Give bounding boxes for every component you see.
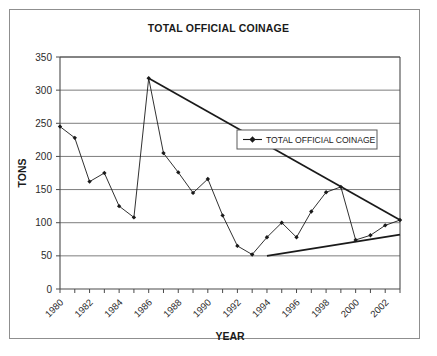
x-axis-title: YEAR [215,330,245,342]
x-tick-label: 1982 [72,297,95,320]
x-tick-label: 2000 [338,297,361,320]
x-tick-label: 1980 [43,297,66,320]
y-tick-label: 250 [35,118,52,129]
y-tick-label: 350 [35,52,52,63]
x-tick-label: 1996 [279,297,302,320]
chart-plot-area: 050100150200250300350 198019821984198619… [0,0,437,356]
y-tick-label: 300 [35,85,52,96]
chart-figure: TOTAL OFFICIAL COINAGE 05010015020025030… [0,0,437,356]
y-tick-label: 50 [41,250,53,261]
plot-background [60,57,400,289]
y-axis-ticks: 050100150200250300350 [35,52,60,295]
x-tick-label: 1994 [250,297,273,320]
chart-legend: TOTAL OFFICIAL COINAGE [237,130,377,149]
x-tick-label: 2002 [368,297,391,320]
y-axis-title: TONS [16,159,28,188]
x-tick-label: 1984 [102,297,125,320]
x-tick-label: 1986 [131,297,154,320]
x-tick-label: 1988 [161,297,184,320]
legend-label: TOTAL OFFICIAL COINAGE [266,135,376,145]
y-tick-label: 100 [35,217,52,228]
x-tick-label: 1990 [191,297,214,320]
y-tick-label: 150 [35,184,52,195]
x-tick-label: 1992 [220,297,243,320]
x-axis-ticks: 1980198219841986198819901992199419961998… [43,289,400,319]
x-tick-label: 1998 [309,297,332,320]
y-tick-label: 200 [35,151,52,162]
y-tick-label: 0 [46,284,52,295]
